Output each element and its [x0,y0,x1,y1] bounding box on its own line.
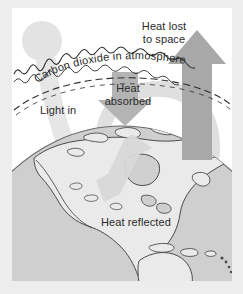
great-lakes-east [157,203,172,213]
diagram-panel: Carbon dioxide in atmosphere Heat lost t… [12,8,232,281]
inland-lake-3 [110,203,122,209]
lesser-antilles-dot-1 [220,256,223,259]
cuba-island [149,243,174,252]
greenhouse-effect-illustration: Carbon dioxide in atmosphere [12,8,232,281]
sun-icon [22,21,62,61]
puerto-rico-island [205,251,216,256]
inland-lake-2 [84,195,98,201]
hispaniola-island [181,249,198,257]
lesser-antilles-dot-3 [228,266,231,269]
lesser-antilles-dot-2 [225,261,228,264]
figure-screenshot: Carbon dioxide in atmosphere Heat lost t… [0,0,243,294]
inland-lake-1 [70,183,82,189]
